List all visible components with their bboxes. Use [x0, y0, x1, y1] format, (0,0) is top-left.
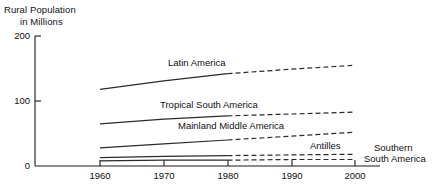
series-label-latin-america: Latin America — [168, 57, 226, 68]
series-label-southern-south-america-line-1: Southern — [374, 142, 413, 153]
series-line-southern-south-america-projected — [228, 160, 356, 161]
series-line-antilles-projected — [228, 154, 356, 155]
series-label-southern-south-america-line-2: South America — [364, 153, 426, 164]
series-line-mainland-middle-america-projected — [228, 132, 356, 140]
series-line-tropical-south-america-projected — [228, 112, 356, 116]
series-label-tropical-south-america: Tropical South America — [160, 99, 258, 110]
series-line-latin-america-projected — [228, 65, 356, 73]
series-label-antilles: Antilles — [310, 140, 341, 151]
series-line-mainland-middle-america-observed — [100, 140, 228, 148]
series-label-mainland-middle-america: Mainland Middle America — [178, 120, 284, 131]
series-line-antilles-observed — [100, 156, 228, 158]
series-line-latin-america-observed — [100, 74, 228, 90]
series-line-southern-south-america-observed — [100, 160, 228, 161]
rural-population-line-chart: Rural Population in Millions 200 100 0 1… — [0, 0, 434, 188]
